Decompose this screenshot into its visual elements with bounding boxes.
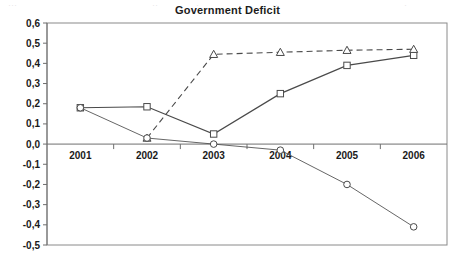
y-axis-tick-label: -0,2 bbox=[23, 179, 41, 190]
x-axis-tick-label: 2005 bbox=[336, 150, 359, 161]
y-axis-tick-label: -0,4 bbox=[23, 219, 41, 230]
y-axis-tick-label: 0,5 bbox=[26, 38, 40, 49]
x-axis-tick-label: 2001 bbox=[69, 150, 92, 161]
chart-plot-area: 0,60,50,40,30,20,10,0-0,1-0,2-0,3-0,4-0,… bbox=[0, 0, 455, 254]
series-line-circle bbox=[80, 108, 413, 227]
data-point-marker-square bbox=[144, 104, 150, 110]
series-line-square bbox=[80, 55, 413, 134]
government-deficit-line-chart: 0,60,50,40,30,20,10,0-0,1-0,2-0,3-0,4-0,… bbox=[0, 0, 455, 254]
y-axis-tick-label: 0,3 bbox=[26, 78, 40, 89]
y-axis-tick-label: 0,6 bbox=[26, 18, 40, 29]
x-axis-tick-label: 2003 bbox=[203, 150, 226, 161]
data-point-marker-square bbox=[410, 52, 416, 58]
data-point-marker-circle bbox=[277, 147, 284, 154]
data-point-marker-triangle bbox=[210, 50, 218, 57]
x-axis-tick-label: 2002 bbox=[136, 150, 159, 161]
y-axis-tick-label: 0,4 bbox=[26, 58, 40, 69]
data-point-marker-square bbox=[277, 90, 283, 96]
y-axis-tick-label: -0,5 bbox=[23, 240, 41, 251]
series-square-solid-series bbox=[77, 52, 417, 137]
data-point-marker-circle bbox=[144, 135, 151, 142]
data-point-marker-square bbox=[210, 131, 216, 137]
data-point-marker-circle bbox=[210, 141, 217, 148]
data-point-marker-circle bbox=[410, 224, 417, 231]
y-axis-tick-label: -0,3 bbox=[23, 199, 41, 210]
y-axis-tick-label: 0,1 bbox=[26, 118, 40, 129]
series-circle-thin-series bbox=[77, 104, 417, 230]
x-axis-tick-label: 2006 bbox=[403, 150, 426, 161]
data-point-marker-square bbox=[344, 62, 350, 68]
y-axis-tick-label: -0,1 bbox=[23, 159, 41, 170]
y-axis-tick-label: 0,0 bbox=[26, 139, 40, 150]
plot-frame bbox=[47, 23, 447, 245]
data-point-marker-circle bbox=[344, 181, 351, 188]
data-point-marker-circle bbox=[77, 104, 84, 111]
y-axis-tick-label: 0,2 bbox=[26, 98, 40, 109]
